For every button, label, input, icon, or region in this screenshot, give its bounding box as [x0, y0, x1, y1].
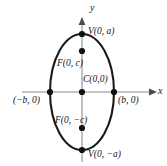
point-vertex-bottom [79, 147, 85, 153]
label-vertex-bottom: V(0, −a) [88, 150, 121, 160]
label-covertex-left: (−b, 0) [13, 96, 40, 106]
point-vertex-top [79, 31, 85, 37]
point-covertex-right [111, 89, 117, 95]
point-focus-bottom [79, 125, 85, 131]
label-focus-top: F(0, c) [57, 59, 83, 69]
x-axis-arrow-icon [149, 89, 157, 96]
y-axis-arrow-icon [79, 17, 86, 25]
label-covertex-right: (b, 0) [118, 96, 139, 106]
label-focus-bottom: F(0, −c) [55, 116, 87, 126]
point-covertex-left [47, 89, 53, 95]
label-center: C(0,0) [83, 75, 108, 85]
y-axis-label: y [90, 3, 94, 13]
ellipse-figure: y x V(0, a) F(0, c) C(0,0) F(0, −c) V(0,… [0, 0, 167, 166]
point-focus-top [79, 48, 85, 54]
label-vertex-top: V(0, a) [88, 27, 114, 37]
x-axis-label: x [158, 86, 162, 96]
point-center [79, 89, 85, 95]
